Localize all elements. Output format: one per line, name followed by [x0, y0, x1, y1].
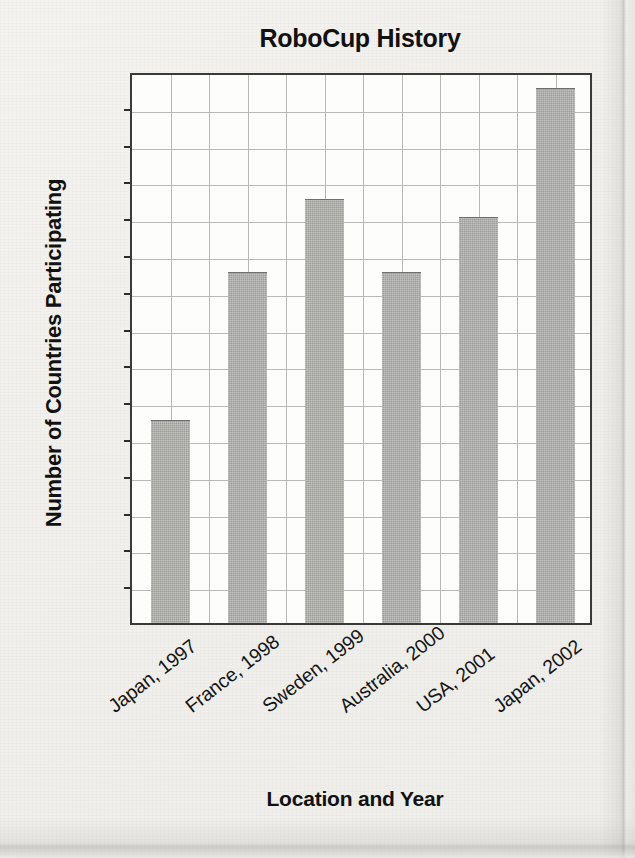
x-tick-label: Japan, 2002	[488, 635, 585, 718]
bar	[305, 199, 344, 623]
page-canvas: RoboCup History Number of Countries Part…	[0, 0, 635, 858]
bar	[228, 272, 267, 623]
x-tick-label: France, 1998	[180, 630, 283, 717]
y-axis-ticks: 024681012141618202224262830	[0, 0, 130, 858]
plot-area	[130, 73, 592, 625]
bar	[536, 88, 575, 623]
x-tick-label: Australia, 2000	[334, 621, 448, 717]
bar	[459, 217, 498, 623]
x-tick-label: Sweden, 1999	[257, 624, 368, 717]
bar	[151, 420, 190, 623]
chart-title: RoboCup History	[100, 24, 620, 53]
bar	[382, 272, 421, 623]
page-edge-shadow-right	[601, 0, 635, 858]
x-tick-label: USA, 2001	[411, 642, 498, 717]
x-axis-title: Location and Year	[120, 787, 590, 811]
bar-series	[132, 75, 590, 623]
